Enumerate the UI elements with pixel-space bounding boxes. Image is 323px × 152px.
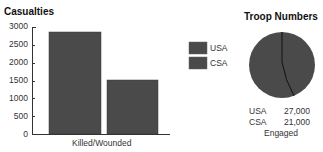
- legend-label-csa: CSA: [210, 58, 227, 68]
- pie-row-value-csa: 21,000: [284, 117, 310, 127]
- pie-chart-title: Troop Numbers: [244, 11, 318, 22]
- legend-swatch-usa: [189, 42, 207, 54]
- pie-row-label-csa: CSA: [249, 117, 266, 127]
- bar-usa: [49, 32, 101, 134]
- x-axis-label: Killed/Wounded: [72, 138, 131, 148]
- pie-caption: Engaged: [264, 128, 298, 138]
- legend-swatch-csa: [189, 57, 207, 69]
- bar-csa: [107, 80, 158, 134]
- legend-label-usa: USA: [210, 43, 227, 53]
- pie-row-label-usa: USA: [249, 106, 266, 116]
- pie-row-value-usa: 27,000: [284, 106, 310, 116]
